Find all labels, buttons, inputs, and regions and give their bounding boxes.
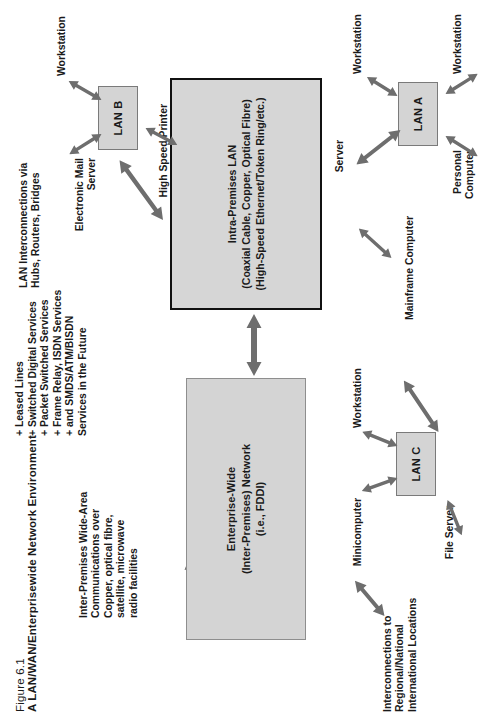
arrow-lan-c-to-intra xyxy=(398,377,443,436)
arrow-server-to-lan-a xyxy=(352,125,404,170)
intra-premises-lan-label: Intra-Premises LAN (Coaxial Cable, Coppe… xyxy=(225,80,267,308)
arrow-enterprise-to-intra xyxy=(246,314,262,376)
node-workstation-b: Workstation xyxy=(56,0,68,76)
intra-premises-lan-box: Intra-Premises LAN (Coaxial Cable, Coppe… xyxy=(170,78,322,310)
enterprise-wide-label: Enterprise-Wide (Inter-Premises) Network… xyxy=(224,379,268,639)
figure-canvas: Figure 6.1 A LAN/WAN/Enterprisewide Netw… xyxy=(0,0,494,728)
annotation-wan-media: Inter-Premises Wide-Area Communications … xyxy=(78,450,140,618)
figure-caption: Figure 6.1 A LAN/WAN/Enterprisewide Netw… xyxy=(14,435,38,712)
node-workstation-c: Workstation xyxy=(352,332,364,428)
lan-c-label: LAN C xyxy=(410,433,422,495)
node-personal-computer: Personal Computer xyxy=(452,150,476,228)
node-minicomputer: Minicomputer xyxy=(352,498,364,588)
network-diagram: Figure 6.1 A LAN/WAN/Enterprisewide Netw… xyxy=(0,0,494,728)
lan-c-box: LAN C xyxy=(396,432,436,496)
node-workstation-a2: Workstation xyxy=(452,4,464,74)
arrow-mainframe-to-intra xyxy=(355,224,395,262)
node-email-server: Electronic Mail Server xyxy=(74,158,98,258)
enterprise-wide-box: Enterprise-Wide (Inter-Premises) Network… xyxy=(186,378,306,640)
arrow-workstation-to-lan-c xyxy=(360,427,399,451)
annotation-lan-interconnections: LAN Interconnections via Hubs, Routers, … xyxy=(18,98,42,288)
node-server-a: Server xyxy=(334,140,346,232)
lan-b-label: LAN B xyxy=(112,87,124,149)
node-mainframe-computer: Mainframe Computer xyxy=(404,216,416,356)
arrow-minicomputer-to-lan-c xyxy=(360,473,399,496)
figure-title: A LAN/WAN/Enterprisewide Network Environ… xyxy=(26,435,38,712)
lan-a-box: LAN A xyxy=(398,82,438,146)
lan-a-label: LAN A xyxy=(412,83,424,145)
arrow-workstation-a1-to-lan-a xyxy=(364,72,400,100)
annotation-interconnections: Interconnections to Regional/National In… xyxy=(382,562,419,712)
node-workstation-a1: Workstation xyxy=(352,4,364,74)
figure-number: Figure 6.1 xyxy=(14,435,26,712)
